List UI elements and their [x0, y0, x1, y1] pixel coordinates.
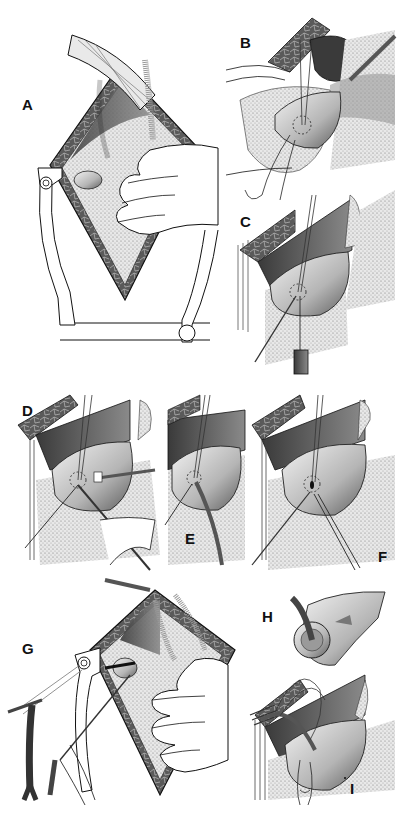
panel-label-d: D [22, 402, 33, 419]
panel-label-h: H [262, 608, 273, 625]
panel-label-b: B [240, 34, 251, 51]
panel-label-i: I [350, 780, 354, 797]
panel-label-g: G [22, 640, 34, 657]
panel-f-drawing [252, 395, 395, 570]
panel-label-a: A [22, 96, 33, 113]
panel-e-drawing [165, 395, 245, 565]
panel-d-drawing [18, 395, 160, 570]
panel-h-drawing [292, 592, 385, 666]
panel-i-drawing [250, 675, 395, 805]
surgical-illustration [0, 0, 404, 815]
panel-label-c: C [240, 213, 251, 230]
panel-b-drawing [226, 18, 395, 200]
panel-g-drawing [8, 580, 235, 805]
panel-c-drawing [238, 190, 395, 374]
panel-label-e: E [185, 530, 195, 547]
panel-label-f: F [378, 548, 387, 565]
panel-a-drawing [38, 35, 218, 342]
